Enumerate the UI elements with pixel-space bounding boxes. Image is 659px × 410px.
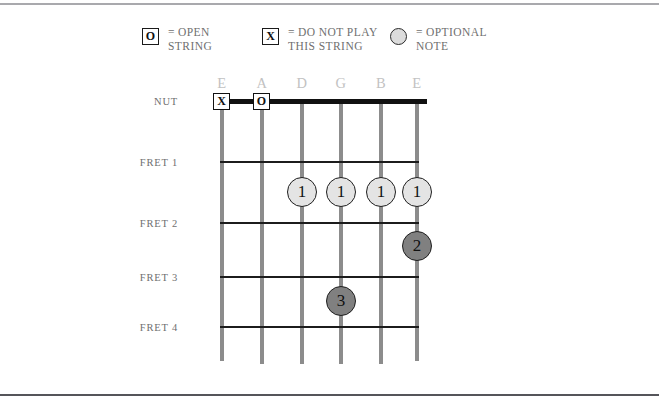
fret-line-1 — [220, 161, 419, 163]
string-a — [260, 99, 264, 364]
string-label-b: B — [369, 75, 393, 92]
string-b — [379, 99, 383, 364]
fret-line-2 — [220, 222, 419, 224]
finger-dot-d-fret1: 1 — [287, 177, 317, 207]
finger-dot-e-high-fret1: 1 — [402, 177, 432, 207]
string-e-low — [220, 99, 224, 361]
string-d — [300, 99, 304, 364]
string-label-a: A — [250, 75, 274, 92]
fret-label-fret-2: FRET 2 — [108, 218, 178, 229]
fret-label-fret-3: FRET 3 — [108, 272, 178, 283]
fretboard-diagram: E A D G B E NUT FRET 1 FRET 2 FRET 3 FRE… — [0, 0, 659, 410]
fret-label-fret-4: FRET 4 — [108, 322, 178, 333]
string-g — [339, 99, 343, 364]
string-label-e-low: E — [210, 75, 234, 92]
string-label-d: D — [290, 75, 314, 92]
finger-dot-g-fret4: 3 — [326, 286, 356, 316]
nut-marker-do-not-play-e-low: X — [213, 93, 230, 110]
fret-line-3 — [220, 276, 419, 278]
finger-dot-g-fret1: 1 — [326, 177, 356, 207]
chord-chart-page: O =OPEN STRING X =DO NOT PLAY THIS STRIN… — [0, 0, 659, 410]
nut-marker-open-a: O — [253, 93, 270, 110]
finger-dot-b-fret1: 1 — [366, 177, 396, 207]
fret-line-4 — [220, 326, 419, 328]
fret-label-nut: NUT — [108, 96, 178, 107]
finger-dot-e-high-fret2: 2 — [402, 231, 432, 261]
nut-line — [220, 99, 427, 104]
string-e-high — [415, 99, 419, 361]
string-label-g: G — [329, 75, 353, 92]
string-label-e-high: E — [405, 75, 429, 92]
fret-label-fret-1: FRET 1 — [108, 157, 178, 168]
